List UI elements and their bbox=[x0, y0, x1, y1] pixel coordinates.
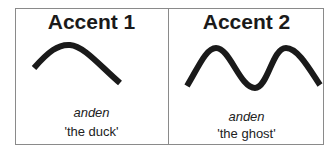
accent-1-contour-icon bbox=[34, 45, 120, 83]
panel-1-gloss: 'the duck' bbox=[15, 124, 168, 139]
accent-2-contour-icon bbox=[187, 48, 320, 88]
panel-2-gloss: 'the ghost' bbox=[169, 126, 324, 141]
panel-2-word: anden bbox=[169, 109, 324, 124]
panel-1-word: anden bbox=[15, 105, 168, 120]
